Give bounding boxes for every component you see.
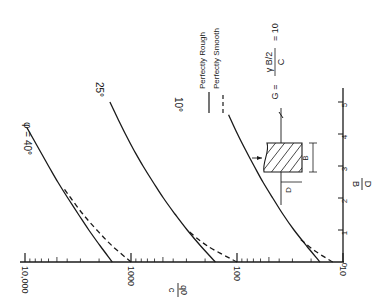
db-axis-tick-labels: 012345: [340, 102, 349, 267]
q-axis-label-den: c: [167, 288, 177, 293]
formula-num: γ B/2: [264, 52, 274, 73]
legend: Perfectly Rough Perfectly Smooth: [198, 28, 223, 113]
db-tick-label: 2: [340, 198, 349, 203]
q-tick-label: 10,000: [20, 266, 30, 294]
dim-d-label: D: [284, 187, 293, 193]
q-tick-label: 1000: [126, 266, 136, 286]
db-tick-label: 3: [340, 166, 349, 171]
q-tick-label: 100: [232, 266, 242, 281]
db-tick-label: 1: [340, 230, 349, 235]
series-line-3: [187, 230, 237, 262]
formula-rhs: = 10: [270, 23, 280, 41]
q-axis-ticks: [25, 253, 343, 262]
series-label-phi-40: φ = 40°: [22, 122, 33, 155]
series-line-4: [229, 115, 320, 262]
db-axis-label: D B: [351, 178, 373, 190]
db-tick-label: 4: [340, 134, 349, 139]
series-label-10: 10°: [173, 97, 184, 112]
q-axis-label: q0 c: [167, 283, 189, 297]
formula-lhs: G =: [270, 85, 280, 100]
db-axis-label-num: D: [363, 181, 373, 188]
q-axis-label-num: q0: [179, 285, 189, 295]
db-tick-label: 0: [340, 262, 349, 267]
db-axis-label-den: B: [351, 181, 361, 187]
db-axis-ticks: [338, 102, 343, 230]
legend-smooth-label: Perfectly Smooth: [212, 28, 221, 89]
load-arrow-head: [257, 156, 262, 160]
footing-inset-diagram: B D: [252, 108, 317, 205]
series-line-2: [110, 102, 215, 262]
bearing-capacity-chart: 10100100010,000 012345 q0 c D B φ = 40° …: [0, 0, 385, 308]
parameter-formula: G = γ B/2 C = 10: [264, 23, 286, 99]
series-line-1: [64, 188, 131, 262]
legend-rough-label: Perfectly Rough: [198, 32, 207, 89]
db-tick-label: 5: [340, 102, 349, 107]
series-line-0: [27, 128, 112, 262]
series-label-25: 25°: [94, 82, 105, 97]
formula-den: C: [276, 58, 286, 65]
dim-b-label: B: [301, 155, 310, 160]
